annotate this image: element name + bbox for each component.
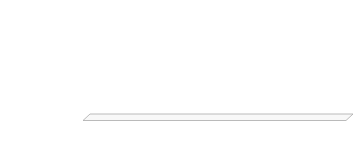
- chart-floor: [0, 0, 359, 160]
- bar-chart: [0, 0, 359, 160]
- chart-floor-polygon: [83, 114, 353, 121]
